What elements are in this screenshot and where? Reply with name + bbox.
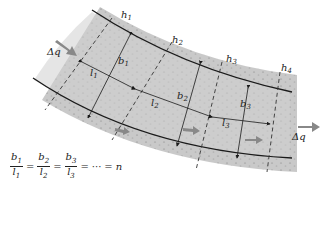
- fraction-3: b3 l3: [65, 152, 78, 181]
- dq-out-label: Δq: [291, 131, 306, 142]
- dq-in-label: Δq: [46, 46, 61, 57]
- flow-net-equation: b1 l1 = b2 l2 = b3 l3 = ··· = n: [10, 152, 122, 181]
- fraction-2: b2 l2: [37, 152, 50, 181]
- fraction-1: b1 l1: [10, 152, 23, 181]
- equation-result: n: [116, 161, 122, 172]
- h4-label: h4: [281, 62, 292, 75]
